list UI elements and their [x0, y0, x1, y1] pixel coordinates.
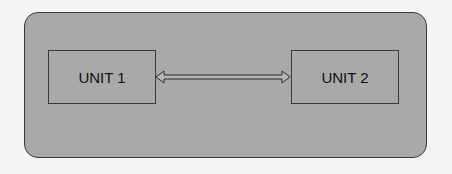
unit-1-label: UNIT 1	[78, 69, 125, 86]
unit-2-label: UNIT 2	[321, 69, 368, 86]
bidirectional-arrow-icon	[155, 70, 291, 84]
unit-2-box: UNIT 2	[291, 50, 399, 104]
unit-1-box: UNIT 1	[48, 50, 156, 104]
